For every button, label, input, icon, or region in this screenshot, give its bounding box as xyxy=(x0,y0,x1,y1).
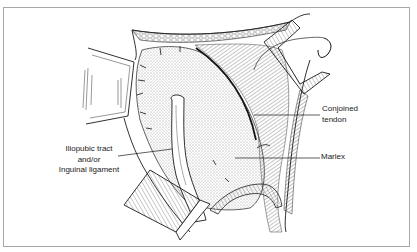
label-conjoined-tendon: Conjoined tendon xyxy=(322,104,358,125)
label-iliopubic-tract: Iliopubic tract and/or Inguinal ligament xyxy=(50,144,128,176)
label-line: and/or xyxy=(50,155,128,166)
left-retractor xyxy=(83,48,134,124)
label-line: Marlex xyxy=(321,152,345,163)
label-marlex: Marlex xyxy=(321,152,345,163)
label-line: tendon xyxy=(322,115,358,126)
label-line: Iliopubic tract xyxy=(50,144,128,155)
surgical-illustration xyxy=(0,0,417,252)
label-line: Inguinal ligament xyxy=(50,165,128,176)
label-line: Conjoined xyxy=(322,104,358,115)
subcutaneous-fat xyxy=(132,22,290,42)
